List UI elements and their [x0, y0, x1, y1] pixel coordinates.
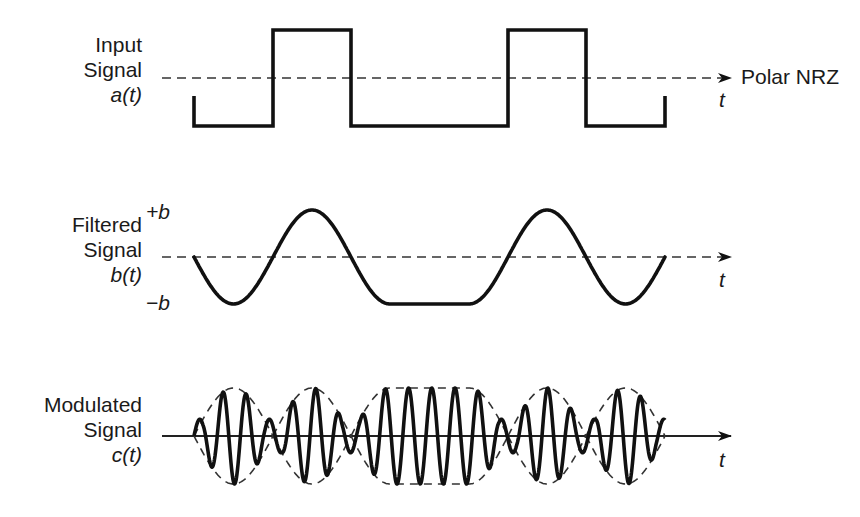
input-square-wave	[194, 30, 665, 126]
signal-diagram-svg	[0, 0, 860, 517]
filtered-smooth-wave	[194, 210, 665, 304]
modulated-envelope-lower	[194, 436, 665, 484]
